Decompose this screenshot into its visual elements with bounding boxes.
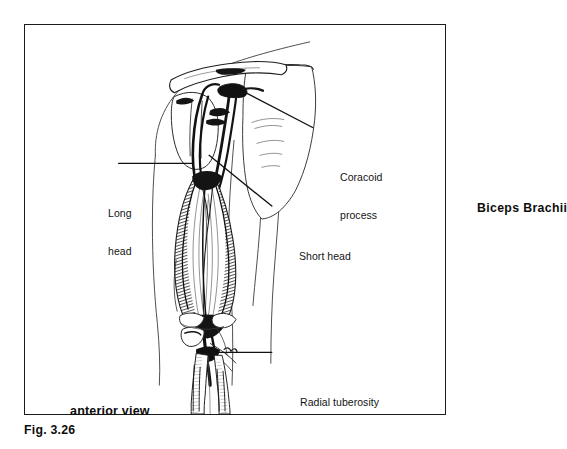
callout-line-2: process xyxy=(340,209,382,222)
figure-title: Biceps Brachii xyxy=(477,201,567,215)
callout-line-1: Radial tuberosity xyxy=(300,396,379,409)
callout-label-radial-tuberosity: Radial tuberosity xyxy=(300,371,379,434)
view-label: anterior view xyxy=(70,404,150,418)
callout-line-1: Coracoid xyxy=(340,171,382,184)
callout-line-1: Short head xyxy=(299,250,351,263)
callout-label-long-head: Long head xyxy=(108,182,132,282)
figure-number: Fig. 3.26 xyxy=(24,423,75,437)
callout-label-short-head: Short head xyxy=(299,225,351,288)
illustration-frame: Coracoid process Long head Short head Ra… xyxy=(24,24,446,415)
callout-line-1: Long xyxy=(108,207,132,220)
callout-line-2: head xyxy=(108,245,132,258)
